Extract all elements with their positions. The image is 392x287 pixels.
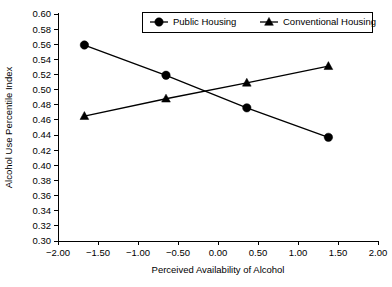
x-tick-label: −0.50 [166,247,190,258]
y-tick-label: 0.40 [33,160,52,171]
y-tick-label: 0.38 [33,175,52,186]
x-tick-label: 2.00 [369,247,388,258]
legend-label: Conventional Housing [283,16,376,27]
y-tick-label: 0.44 [33,129,52,140]
y-axis-title: Alcohol Use Percentile Index [3,67,14,189]
chart-container: 0.600.580.560.540.520.500.480.460.440.42… [0,0,392,287]
data-point-circle [80,41,88,49]
y-tick-label: 0.46 [33,114,52,125]
data-point-triangle [324,62,333,70]
legend-marker-circle [155,18,163,26]
series-2 [80,62,333,120]
y-tick-label: 0.42 [33,145,52,156]
y-tick-label: 0.48 [33,99,52,110]
y-tick-label: 0.32 [33,220,52,231]
y-tick-label: 0.34 [33,205,52,216]
data-point-circle [162,71,170,79]
y-tick-label: 0.36 [33,190,52,201]
y-tick-label: 0.50 [33,84,52,95]
x-tick-label: −2.00 [46,247,70,258]
y-tick-label: 0.60 [33,8,52,19]
data-point-circle [324,133,332,141]
y-tick-label: 0.52 [33,69,52,80]
line-chart: 0.600.580.560.540.520.500.480.460.440.42… [0,0,392,287]
y-tick-label: 0.56 [33,39,52,50]
x-tick-label: 1.50 [329,247,348,258]
x-tick-label: −1.50 [86,247,110,258]
y-tick-label: 0.54 [33,54,52,65]
x-tick-label: 1.00 [289,247,308,258]
y-tick-label: 0.30 [33,235,52,246]
series-line [84,66,328,116]
data-point-circle [243,104,251,112]
x-tick-label: 0.50 [249,247,268,258]
x-tick-label: −1.00 [126,247,150,258]
y-tick-label: 0.58 [33,24,52,35]
legend-label: Public Housing [173,16,236,27]
x-tick-label: 0.00 [209,247,228,258]
x-axis-title: Perceived Availability of Alcohol [152,264,285,275]
